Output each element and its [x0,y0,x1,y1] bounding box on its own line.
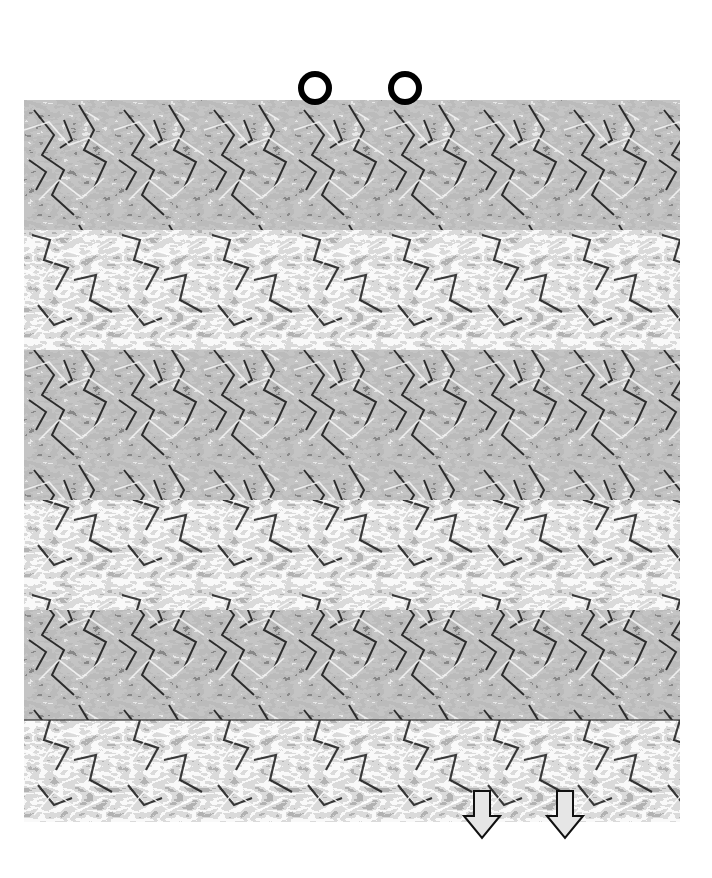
ring-icon [298,71,332,105]
stereogram-image [24,100,680,822]
stereogram-pattern [24,100,680,822]
down-arrow-icon [462,790,502,840]
ring-icon [388,71,422,105]
down-arrow-icon [545,790,585,840]
